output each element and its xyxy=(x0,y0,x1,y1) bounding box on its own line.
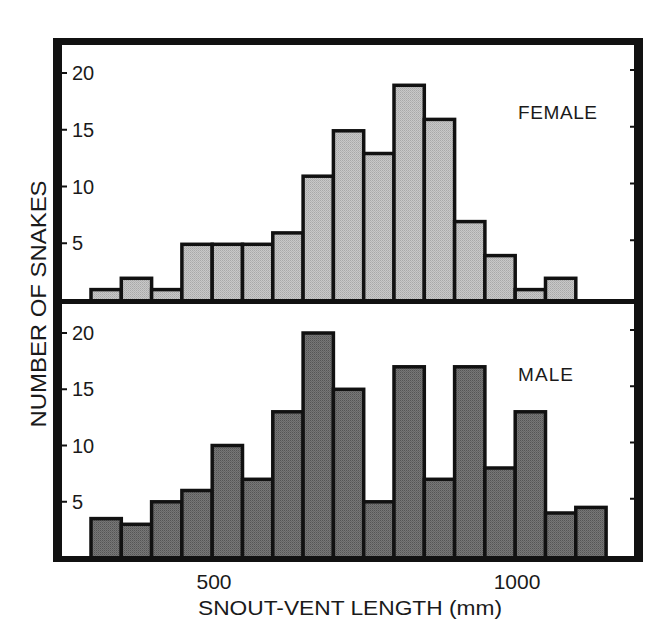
x-tick-label-1000: 1000 xyxy=(494,570,541,593)
male-bar-900 xyxy=(455,367,485,558)
male-bar-1050 xyxy=(546,513,576,558)
x-axis-title: SNOUT-VENT LENGTH (mm) xyxy=(198,597,502,619)
male-bar-650 xyxy=(303,333,333,558)
y-tick-label: 10 xyxy=(72,176,94,198)
y-tick-label: 15 xyxy=(72,119,94,141)
female-bar-500 xyxy=(212,244,242,301)
y-tick-label: 10 xyxy=(72,435,94,457)
female-panel-label: FEMALE xyxy=(518,102,597,123)
female-bar-600 xyxy=(273,233,303,301)
panel-divider-female-baseline xyxy=(53,299,643,304)
male-bar-850 xyxy=(424,479,454,558)
x-axis-male-baseline xyxy=(53,556,643,562)
female-bar-700 xyxy=(333,131,363,301)
female-bar-850 xyxy=(424,119,454,301)
female-bar-350 xyxy=(121,278,151,301)
y-tick-label: 5 xyxy=(72,491,83,513)
male-bar-1000 xyxy=(515,412,545,558)
y-axis-title: NUMBER OF SNAKES xyxy=(26,181,51,428)
female-bar-650 xyxy=(303,176,333,301)
y-tick-label: 5 xyxy=(72,232,83,254)
female-bar-950 xyxy=(485,256,515,301)
female-bar-1050 xyxy=(546,278,576,301)
male-bar-700 xyxy=(333,389,363,558)
male-bar-950 xyxy=(485,468,515,558)
female-histogram-bars xyxy=(91,85,576,301)
male-bar-800 xyxy=(394,367,424,558)
male-bar-300 xyxy=(91,519,121,558)
female-bar-550 xyxy=(243,244,273,301)
x-tick-label-500: 500 xyxy=(196,570,231,593)
y-tick-label: 20 xyxy=(72,322,94,344)
male-bar-500 xyxy=(212,446,242,559)
male-bar-1100 xyxy=(576,507,606,558)
female-bar-450 xyxy=(182,244,212,301)
male-bar-550 xyxy=(243,479,273,558)
male-bar-350 xyxy=(121,524,151,558)
histogram-chart: 51015205101520 FEMALE MALE 500 1000 SNOU… xyxy=(0,0,672,644)
y-tick-label: 20 xyxy=(72,62,94,84)
male-bar-450 xyxy=(182,491,212,559)
female-bar-800 xyxy=(394,85,424,301)
male-bar-400 xyxy=(152,502,182,558)
female-bar-900 xyxy=(455,222,485,302)
male-panel-label: MALE xyxy=(518,364,573,385)
male-bar-750 xyxy=(364,502,394,558)
female-bar-750 xyxy=(364,154,394,302)
male-bar-600 xyxy=(273,412,303,558)
frame-top-border xyxy=(53,38,643,45)
y-tick-label: 15 xyxy=(72,378,94,400)
